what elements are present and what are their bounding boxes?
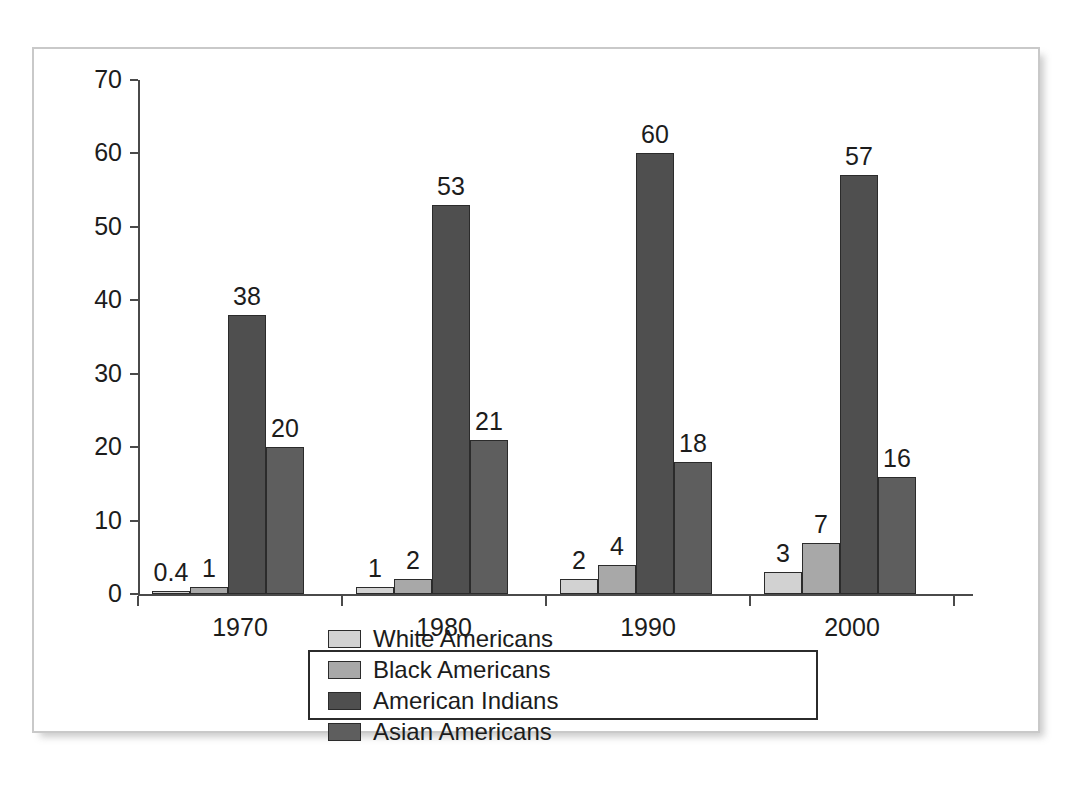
y-axis-tick <box>130 593 138 595</box>
legend-swatch <box>328 692 361 710</box>
legend-item: White Americans <box>328 623 574 654</box>
legend-item: Black Americans <box>328 654 574 685</box>
y-axis-tick-label: 20 <box>56 434 122 459</box>
legend-label: Asian Americans <box>373 720 552 744</box>
chart-legend: White AmericansBlack AmericansAmerican I… <box>308 650 818 720</box>
bar <box>152 591 190 594</box>
bar-value-label: 57 <box>819 144 899 169</box>
x-axis-tick <box>749 596 751 606</box>
bar-value-label: 3 <box>743 541 823 566</box>
legend-item: Asian Americans <box>328 716 574 747</box>
bar <box>432 205 470 594</box>
y-axis-tick <box>130 79 138 81</box>
y-axis-tick-label: 70 <box>56 67 122 92</box>
y-axis-tick-label: 30 <box>56 361 122 386</box>
y-axis-tick-label: 0 <box>56 581 122 606</box>
bar-value-label: 21 <box>449 409 529 434</box>
y-axis-tick <box>130 373 138 375</box>
bar <box>674 462 712 594</box>
bar <box>878 477 916 594</box>
bar <box>560 579 598 594</box>
bar <box>636 153 674 594</box>
figure-root: 010203040506070 1970198019902000 0.41382… <box>0 0 1079 791</box>
legend-swatch <box>328 723 361 741</box>
bar <box>190 587 228 594</box>
y-axis-tick-label: 50 <box>56 214 122 239</box>
bar-value-label: 2 <box>373 548 453 573</box>
bar-value-label: 38 <box>207 284 287 309</box>
bar <box>228 315 266 594</box>
y-axis-tick-label: 40 <box>56 287 122 312</box>
y-axis-tick-label: 10 <box>56 508 122 533</box>
legend-label: American Indians <box>373 689 558 713</box>
figure-frame: 010203040506070 1970198019902000 0.41382… <box>32 47 1040 733</box>
legend-item: American Indians <box>328 685 574 716</box>
legend-swatch <box>328 630 361 648</box>
bar-value-label: 53 <box>411 174 491 199</box>
y-axis-tick <box>130 152 138 154</box>
y-axis-tick <box>130 446 138 448</box>
bar-value-label: 7 <box>781 512 861 537</box>
x-axis-tick-label: 2000 <box>752 615 952 640</box>
legend-label: Black Americans <box>373 658 550 682</box>
x-axis-line <box>138 594 973 596</box>
bar-value-label: 20 <box>245 416 325 441</box>
bar-value-label: 4 <box>577 534 657 559</box>
legend-label: White Americans <box>373 627 553 651</box>
bar-value-label: 18 <box>653 431 733 456</box>
y-axis-tick <box>130 226 138 228</box>
plot-area: 010203040506070 1970198019902000 0.41382… <box>34 49 1042 735</box>
y-axis-tick <box>130 299 138 301</box>
y-axis-line <box>138 80 140 595</box>
bar <box>470 440 508 594</box>
x-axis-tick <box>137 596 139 606</box>
x-axis-tick-label: 1990 <box>548 615 748 640</box>
legend-swatch <box>328 661 361 679</box>
bar <box>394 579 432 594</box>
bar-value-label: 16 <box>857 446 937 471</box>
x-axis-tick <box>545 596 547 606</box>
bar <box>266 447 304 594</box>
bar-value-label: 1 <box>169 556 249 581</box>
x-axis-tick <box>953 596 955 606</box>
bar <box>764 572 802 594</box>
x-axis-tick <box>341 596 343 606</box>
y-axis-tick-label: 60 <box>56 140 122 165</box>
y-axis-tick <box>130 520 138 522</box>
bar-value-label: 60 <box>615 122 695 147</box>
bar <box>356 587 394 594</box>
x-axis-tick-label: 1970 <box>140 615 340 640</box>
